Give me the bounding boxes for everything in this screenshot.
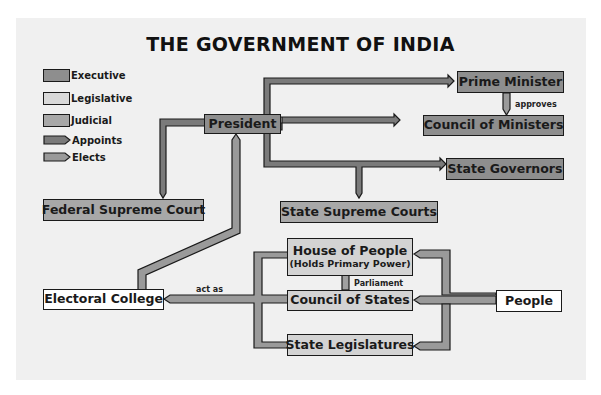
- connector-pm-council: [503, 93, 510, 115]
- elects-arrow-icon: [43, 152, 71, 162]
- executive-swatch: [43, 69, 70, 82]
- connector-parliament: [342, 274, 349, 290]
- connector-legislatures-electoral: [164, 252, 288, 348]
- node-electoral-college: Electoral College: [43, 289, 164, 310]
- connector-people-state-legislatures: [414, 304, 450, 350]
- node-people: People: [496, 290, 562, 312]
- legend-appoints: Appoints: [43, 133, 122, 147]
- act-as-label: act as: [196, 285, 223, 294]
- legend-legislative: Legislative: [43, 91, 132, 105]
- node-president: President: [204, 114, 281, 134]
- node-prime-minister: Prime Minister: [457, 71, 564, 93]
- legend-elects: Elects: [43, 150, 106, 164]
- node-state-supreme-courts: State Supreme Courts: [280, 201, 438, 223]
- judicial-swatch: [43, 114, 70, 127]
- node-state-legislatures: State Legislatures: [287, 334, 413, 356]
- legislative-swatch: [43, 92, 70, 105]
- node-state-governors: State Governors: [446, 158, 564, 180]
- node-council-of-ministers: Council of Ministers: [423, 115, 564, 136]
- node-council-of-states: Council of States: [287, 290, 413, 311]
- appoints-arrow-icon: [43, 135, 71, 145]
- connector-president-federal-court: [160, 119, 206, 198]
- connector-people-legislatures: [414, 250, 496, 295]
- connector-people-council-states: [414, 296, 496, 304]
- connector-president-trunk: [264, 75, 454, 198]
- node-house-of-people: House of People (Holds Primary Power): [287, 238, 413, 276]
- approves-label: approves: [515, 100, 557, 109]
- legend-judicial: Judicial: [43, 113, 112, 127]
- legend-executive: Executive: [43, 68, 126, 82]
- node-federal-supreme-court: Federal Supreme Court: [43, 199, 204, 221]
- parliament-label: Parliament: [354, 279, 403, 288]
